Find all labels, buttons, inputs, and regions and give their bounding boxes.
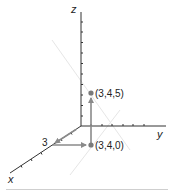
z-axis <box>81 12 83 126</box>
arrow-along-x <box>55 130 76 144</box>
point-label-3-4-5: (3,4,5) <box>95 89 124 99</box>
x-axis-label: x <box>8 174 14 184</box>
point-label-3-4-0: (3,4,0) <box>95 141 124 151</box>
y-axis-label: y <box>157 129 163 139</box>
x-tick-label-3: 3 <box>42 138 48 148</box>
coordinate-diagram <box>0 0 172 194</box>
bottom-divider <box>6 189 168 190</box>
point-3-4-0 <box>88 142 93 147</box>
point-3-4-5 <box>88 90 93 95</box>
y-axis <box>81 124 166 126</box>
z-axis-label: z <box>71 4 77 14</box>
